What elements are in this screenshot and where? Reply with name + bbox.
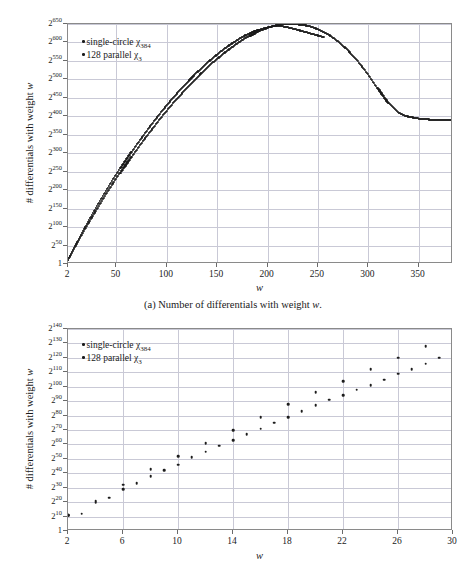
y-tick-label: 2150 — [48, 203, 62, 212]
data-point — [204, 442, 207, 445]
y-tick-label: 260 — [51, 439, 62, 448]
plot-b-container: 1210220230240250260270280290210021102120… — [0, 318, 466, 560]
gridline-horizontal — [68, 227, 451, 228]
data-point — [67, 514, 69, 517]
x-tick-label: 26 — [392, 537, 402, 547]
x-tick-mark — [287, 530, 288, 534]
y-tick-label: 2450 — [48, 93, 62, 102]
gridline-vertical — [318, 24, 319, 262]
x-tick-label: 350 — [411, 270, 425, 280]
gridline-horizontal — [68, 172, 451, 173]
data-point — [273, 421, 276, 424]
data-point — [149, 475, 152, 478]
y-tick-label: 2140 — [48, 324, 62, 333]
data-point — [438, 357, 441, 360]
y-tick-label: 2130 — [48, 338, 62, 347]
gridline-horizontal — [68, 24, 451, 25]
legend-marker-dot-icon — [82, 53, 85, 56]
x-tick-label: 22 — [337, 537, 347, 547]
y-tick-label: 2200 — [48, 185, 62, 194]
y-tick-label: 270 — [51, 425, 62, 434]
legend-marker-dot-icon — [82, 356, 85, 359]
legend-entry-128-parallel: 128 parallel χ3 — [82, 49, 151, 62]
y-axis-title-b: # differentials with weight w — [24, 334, 35, 524]
legend-entry-single-circle: single-circle χ384 — [82, 339, 151, 352]
gridline-horizontal — [68, 98, 451, 99]
x-tick-mark — [452, 530, 453, 534]
data-point — [342, 380, 345, 383]
legend-label: single-circle χ384 — [87, 340, 151, 350]
x-tick-mark — [122, 530, 123, 534]
gridline-horizontal — [68, 459, 451, 460]
x-tick-label: 250 — [310, 270, 324, 280]
gridline-vertical — [288, 329, 289, 529]
figure-b: 1210220230240250260270280290210021102120… — [0, 318, 466, 586]
x-tick-mark — [115, 263, 116, 267]
x-axis-title-b: w — [67, 550, 452, 561]
data-point — [314, 391, 317, 394]
gridline-horizontal — [68, 372, 451, 373]
gridline-horizontal — [68, 135, 451, 136]
x-tick-mark — [177, 530, 178, 534]
gridline-horizontal — [68, 79, 451, 80]
x-tick-mark — [232, 530, 233, 534]
data-point — [259, 416, 262, 419]
y-tick-label: 2350 — [48, 130, 62, 139]
y-tick-label: 2650 — [48, 19, 62, 28]
x-tick-label: 10 — [172, 537, 182, 547]
gridline-horizontal — [68, 329, 451, 330]
data-point — [451, 119, 452, 121]
y-tick-label: 220 — [51, 497, 62, 506]
data-point — [122, 488, 125, 491]
x-tick-mark — [397, 530, 398, 534]
x-tick-mark — [367, 263, 368, 267]
data-point — [397, 372, 400, 375]
data-point — [163, 469, 166, 472]
data-point — [177, 463, 180, 466]
y-tick-label: 2120 — [48, 353, 62, 362]
y-tick-label: 2400 — [48, 111, 62, 120]
x-tick-label: 30 — [447, 537, 457, 547]
y-tick-label: 210 — [51, 511, 62, 520]
y-tick-label: 2600 — [48, 37, 62, 46]
data-point — [300, 410, 303, 413]
y-tick-label: 2500 — [48, 74, 62, 83]
caption-a: (a) Number of differentials with weight … — [0, 299, 466, 310]
data-point — [177, 455, 180, 458]
x-tick-mark — [216, 263, 217, 267]
data-point — [287, 416, 290, 419]
gridline-horizontal — [68, 488, 451, 489]
x-tick-mark — [267, 263, 268, 267]
legend-label: 128 parallel χ3 — [87, 353, 142, 363]
legend-label: 128 parallel χ3 — [87, 50, 142, 60]
legend-marker-dot-icon — [82, 343, 85, 346]
gridline-horizontal — [68, 517, 451, 518]
data-point — [259, 427, 262, 430]
gridline-horizontal — [68, 209, 451, 210]
x-tick-label: 150 — [209, 270, 223, 280]
data-point — [397, 357, 400, 360]
x-tick-label: 2 — [65, 537, 70, 547]
y-tick-label: 2100 — [48, 381, 62, 390]
y-tick-label: 240 — [51, 468, 62, 477]
x-axis-title-a: w — [67, 282, 452, 293]
legend-b: single-circle χ384128 parallel χ3 — [82, 339, 151, 365]
gridline-horizontal — [68, 387, 451, 388]
plot-area-a: single-circle χ384128 parallel χ3 — [67, 23, 452, 263]
x-tick-label: 50 — [111, 270, 121, 280]
data-point — [122, 484, 125, 487]
y-tick-label: 1 — [58, 259, 62, 268]
data-point — [80, 512, 83, 515]
data-point — [204, 450, 207, 453]
legend-marker-dot-icon — [82, 40, 85, 43]
gridline-horizontal — [68, 444, 451, 445]
y-tick-label: 2300 — [48, 148, 62, 157]
gridline-horizontal — [68, 116, 451, 117]
data-point — [342, 394, 345, 397]
y-axis-title-a: # differentials with weight w — [24, 38, 35, 248]
figure-a: 1250210021502200225023002350240024502500… — [0, 0, 466, 318]
gridline-vertical — [167, 24, 168, 262]
data-point — [328, 398, 331, 401]
data-point — [190, 456, 193, 459]
data-point — [410, 368, 413, 371]
